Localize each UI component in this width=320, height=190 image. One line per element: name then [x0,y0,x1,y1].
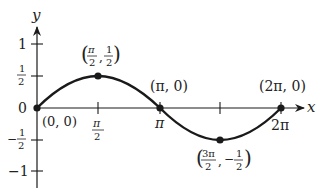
point-min [216,136,223,143]
svg-text:,: , [218,154,222,168]
label-max: ( π 2 , 1 2 ) [81,42,121,68]
y-tick-label-1: 1 [18,36,27,52]
sine-graph: x y 1 1 2 0 − 1 2 −1 π 2 π 2π [0,0,320,190]
label-2pi: (2π, 0) [259,78,306,94]
y-axis-label: y [31,6,41,24]
y-tick-label-half: 1 2 [17,63,26,87]
svg-text:−: − [7,132,17,146]
svg-text:2: 2 [236,161,242,172]
svg-text:2: 2 [18,76,24,87]
x-tick-label-pi: π [154,115,165,131]
svg-text:): ) [244,146,252,170]
svg-text:2: 2 [18,140,24,151]
x-tick-label-2pi: 2π [271,117,289,133]
svg-text:2: 2 [94,131,100,142]
point-origin [33,104,40,111]
point-2pi [277,104,284,111]
y-tick-label-0: 0 [18,100,27,116]
svg-text:2: 2 [89,57,95,68]
svg-text:2: 2 [106,57,112,68]
svg-text:,: , [99,50,103,64]
svg-text:): ) [113,42,121,66]
x-tick-label-pi-over-2: π 2 [92,117,104,142]
x-axis-label: x [307,98,316,116]
svg-text:1: 1 [19,127,25,138]
y-tick-label-neg-half: − 1 2 [7,127,26,151]
svg-text:−: − [224,152,234,166]
svg-text:π: π [87,44,95,55]
point-pi [156,104,163,111]
svg-text:3π: 3π [202,148,215,159]
svg-text:1: 1 [19,63,25,74]
y-tick-label-neg1: −1 [8,163,29,179]
label-min: ( 3π 2 , − 1 2 ) [196,146,252,172]
svg-text:2: 2 [205,161,211,172]
svg-text:1: 1 [236,148,242,159]
svg-text:π: π [92,117,101,130]
label-origin: (0, 0) [42,114,77,129]
point-max [94,72,101,79]
label-pi: (π, 0) [150,78,188,94]
svg-text:1: 1 [106,44,112,55]
